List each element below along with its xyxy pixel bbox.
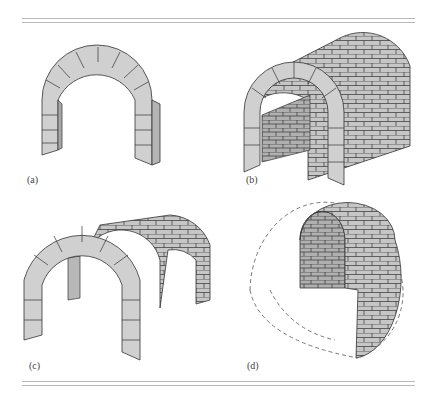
panel-label-b: (b)	[246, 174, 258, 185]
masonry-figures	[0, 0, 436, 397]
groin-vault-figure	[24, 215, 210, 360]
panel-label-d: (d)	[247, 360, 259, 371]
arch-figure	[42, 45, 160, 165]
panel-label-c: (c)	[29, 360, 40, 371]
panel-label-a: (a)	[27, 174, 38, 185]
barrel-vault-figure	[244, 32, 410, 185]
dome-figure	[250, 202, 403, 358]
